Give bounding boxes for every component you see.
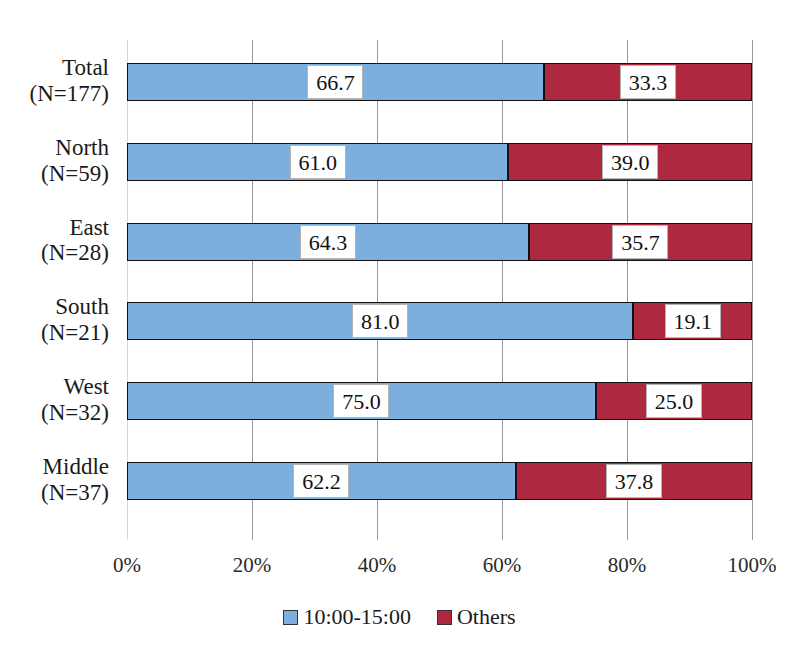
plot-area: 66.733.361.039.064.335.781.019.175.025.0… bbox=[127, 40, 752, 540]
legend-item[interactable]: 10:00-15:00 bbox=[283, 604, 411, 630]
bar-value-label: 64.3 bbox=[300, 225, 356, 259]
bar-row: 75.025.0 bbox=[127, 382, 752, 420]
legend-swatch-icon bbox=[283, 610, 298, 625]
x-tick-label: 40% bbox=[358, 553, 397, 578]
bar-value-label: 39.0 bbox=[602, 145, 658, 179]
category-label: South(N=21) bbox=[41, 294, 109, 346]
category-count: (N=21) bbox=[41, 320, 109, 346]
bar-row: 66.733.3 bbox=[127, 63, 752, 101]
legend-label: Others bbox=[457, 604, 516, 630]
category-name: Total bbox=[30, 55, 109, 81]
category-label: North(N=59) bbox=[41, 135, 109, 187]
category-count: (N=32) bbox=[41, 400, 109, 426]
bar-value-label: 19.1 bbox=[665, 304, 721, 338]
category-name: Middle bbox=[41, 454, 109, 480]
category-name: North bbox=[41, 135, 109, 161]
bar-value-label: 25.0 bbox=[646, 384, 702, 418]
category-name: South bbox=[41, 294, 109, 320]
category-name: East bbox=[41, 215, 109, 241]
bar-row: 81.019.1 bbox=[127, 302, 752, 340]
chart-legend: 10:00-15:00Others bbox=[0, 604, 799, 630]
category-count: (N=37) bbox=[41, 480, 109, 506]
x-tick-label: 20% bbox=[233, 553, 272, 578]
category-name: West bbox=[41, 374, 109, 400]
bar-value-label: 66.7 bbox=[307, 65, 363, 99]
x-tick-label: 100% bbox=[728, 553, 777, 578]
x-tick-label: 80% bbox=[608, 553, 647, 578]
bar-value-label: 81.0 bbox=[352, 304, 408, 338]
legend-label: 10:00-15:00 bbox=[303, 604, 411, 630]
x-tick-label: 0% bbox=[113, 553, 141, 578]
category-count: (N=177) bbox=[30, 81, 109, 107]
bar-value-label: 75.0 bbox=[333, 384, 389, 418]
category-label: West(N=32) bbox=[41, 374, 109, 426]
category-label: Middle(N=37) bbox=[41, 454, 109, 506]
bar-row: 62.237.8 bbox=[127, 462, 752, 500]
bar-value-label: 61.0 bbox=[290, 145, 346, 179]
gridline-100 bbox=[752, 40, 753, 540]
category-count: (N=59) bbox=[41, 161, 109, 187]
bar-value-label: 62.2 bbox=[293, 464, 349, 498]
bar-value-label: 35.7 bbox=[612, 225, 668, 259]
bar-value-label: 37.8 bbox=[606, 464, 662, 498]
stacked-bar-chart: Total(N=177)North(N=59)East(N=28)South(N… bbox=[0, 0, 799, 653]
bar-row: 64.335.7 bbox=[127, 223, 752, 261]
category-label: East(N=28) bbox=[41, 215, 109, 267]
legend-swatch-icon bbox=[437, 610, 452, 625]
bar-value-label: 33.3 bbox=[620, 65, 676, 99]
legend-item[interactable]: Others bbox=[437, 604, 516, 630]
category-label: Total(N=177) bbox=[30, 55, 109, 107]
bar-row: 61.039.0 bbox=[127, 143, 752, 181]
x-tick-label: 60% bbox=[483, 553, 522, 578]
category-count: (N=28) bbox=[41, 240, 109, 266]
